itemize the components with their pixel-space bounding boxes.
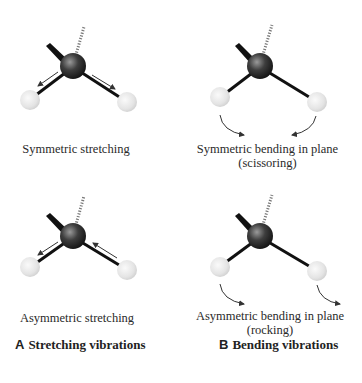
- central-atom: [60, 223, 86, 249]
- panel-title: Asymmetric bending in plane: [190, 309, 350, 323]
- caption-bending: BBending vibrations: [219, 337, 338, 353]
- hydrogen-atom-right: [117, 260, 137, 280]
- arrow-curve-right-right-icon: [317, 285, 340, 304]
- panel-title: Symmetric stretching: [20, 142, 132, 156]
- caption-stretching: AStretching vibrations: [15, 337, 146, 353]
- central-atom: [60, 53, 86, 79]
- hydrogen-atom-left: [210, 87, 230, 107]
- molecule-asymmetric-stretching: [20, 196, 137, 280]
- central-atom: [247, 223, 273, 249]
- central-atom: [247, 53, 273, 79]
- label-asymmetric-stretching: Asymmetric stretching: [17, 311, 137, 325]
- dashed-bond-icon: [75, 196, 84, 228]
- hydrogen-atom-right: [117, 92, 137, 112]
- caption-letter: B: [219, 337, 228, 352]
- panel-subtitle: (scissoring): [190, 156, 345, 170]
- label-symmetric-bending: Symmetric bending in plane (scissoring): [190, 142, 345, 170]
- hydrogen-atom-left: [20, 257, 40, 277]
- label-symmetric-stretching: Symmetric stretching: [20, 142, 132, 156]
- hydrogen-atom-right: [307, 92, 327, 112]
- panel-title: Asymmetric stretching: [17, 311, 137, 325]
- arrow-curve-in-right-icon: [292, 116, 316, 135]
- arrow-curve-in-left-icon: [220, 115, 244, 135]
- panel-title: Symmetric bending in plane: [190, 142, 345, 156]
- caption-text: Stretching vibrations: [28, 337, 145, 352]
- panel-subtitle: (rocking): [190, 323, 350, 337]
- molecule-asymmetric-bending: [210, 195, 340, 304]
- molecule-symmetric-bending: [210, 25, 327, 135]
- hydrogen-atom-right: [307, 261, 327, 281]
- hydrogen-atom-left: [20, 90, 40, 110]
- caption-letter: A: [15, 337, 24, 352]
- molecule-symmetric-stretching: [20, 27, 137, 112]
- label-asymmetric-bending: Asymmetric bending in plane (rocking): [190, 309, 350, 337]
- dashed-bond-icon: [75, 27, 84, 58]
- hydrogen-atom-left: [210, 257, 230, 277]
- dashed-bond-icon: [262, 25, 272, 58]
- arrow-curve-right-left-icon: [220, 284, 244, 304]
- caption-text: Bending vibrations: [232, 337, 338, 352]
- dashed-bond-icon: [262, 195, 272, 228]
